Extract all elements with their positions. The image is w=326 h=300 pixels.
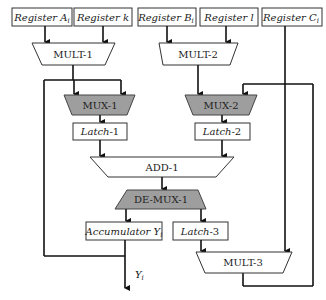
svg-text:MULT-1: MULT-1: [53, 49, 93, 60]
mult-3-block: MULT-3: [196, 252, 292, 273]
svg-text:MUX-1: MUX-1: [82, 100, 117, 111]
latch-1-block: Latch-1: [73, 123, 127, 140]
svg-text:Yi: Yi: [135, 269, 144, 282]
mux-2-block: MUX-2: [185, 95, 257, 115]
demux-1-block: DE-MUX-1: [115, 190, 206, 209]
output-y-label: Yi: [135, 269, 144, 282]
register-a: Register Ai: [12, 8, 72, 26]
register-k: Register k: [74, 8, 132, 26]
svg-text:Latch-1: Latch-1: [80, 126, 119, 137]
svg-text:MULT-2: MULT-2: [178, 49, 218, 60]
svg-text:DE-MUX-1: DE-MUX-1: [134, 194, 188, 205]
svg-text:Latch-3: Latch-3: [180, 226, 219, 237]
svg-text:MUX-2: MUX-2: [203, 100, 238, 111]
svg-text:Register l: Register l: [203, 12, 253, 23]
add-1-block: ADD-1: [90, 157, 234, 177]
datapath-diagram: Register Ai Register k Register Bi Regis…: [0, 0, 326, 300]
svg-text:ADD-1: ADD-1: [144, 162, 178, 173]
latch-2-block: Latch-2: [195, 123, 250, 140]
mult-2-block: MULT-2: [159, 43, 238, 65]
register-c: Register Ci: [262, 8, 322, 26]
mux-1-block: MUX-1: [64, 95, 135, 115]
register-b: Register Bi: [137, 8, 196, 26]
svg-text:Register k: Register k: [76, 12, 129, 23]
svg-text:Latch-2: Latch-2: [202, 126, 241, 137]
accumulator-block: Accumulator Yi: [85, 222, 163, 240]
latch-3-block: Latch-3: [173, 222, 228, 240]
register-l: Register l: [200, 8, 258, 26]
svg-text:MULT-3: MULT-3: [223, 257, 263, 268]
mult-1-block: MULT-1: [32, 43, 115, 65]
